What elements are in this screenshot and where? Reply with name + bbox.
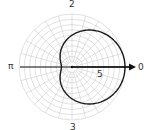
arrow-head-icon	[129, 64, 136, 71]
angle-label-right: 0	[138, 63, 144, 72]
angle-label-top: 2	[69, 0, 75, 9]
angle-label-bottom: 3	[70, 123, 76, 130]
angle-label-left: π	[8, 62, 13, 71]
polar-plot	[0, 0, 148, 130]
origin-point	[71, 66, 74, 69]
radial-tick-label: 5	[97, 70, 103, 79]
